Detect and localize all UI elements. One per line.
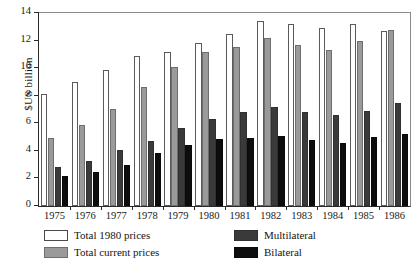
bar-group-1979 bbox=[164, 13, 191, 206]
bar-1985-multi bbox=[364, 111, 370, 206]
legend-item-totalcur: Total current prices bbox=[44, 246, 159, 258]
bar-group-1982 bbox=[257, 13, 284, 206]
bar-group-1977 bbox=[103, 13, 130, 206]
bar-1986-bilat bbox=[402, 134, 408, 206]
bar-1979-bilat bbox=[185, 145, 191, 206]
x-axis-tick-label-1975: 1975 bbox=[39, 210, 70, 221]
x-axis-tick-label-1982: 1982 bbox=[255, 210, 286, 221]
bar-group-1978 bbox=[134, 13, 161, 206]
bar-1981-totalcur bbox=[233, 47, 239, 206]
bar-1979-totalcur bbox=[171, 67, 177, 206]
bar-1982-bilat bbox=[278, 136, 284, 206]
bar-1981-bilat bbox=[247, 138, 253, 206]
bar-1986-total1980 bbox=[381, 31, 387, 206]
y-axis-tick-label: 8 bbox=[26, 88, 31, 99]
bar-1984-multi bbox=[333, 115, 339, 206]
bar-1980-bilat bbox=[216, 139, 222, 206]
bar-1985-bilat bbox=[371, 137, 377, 206]
plot-area: 02468101214 bbox=[38, 12, 411, 207]
legend-label-multi: Multilateral bbox=[264, 229, 316, 241]
bar-1977-totalcur bbox=[110, 109, 116, 206]
bar-1979-multi bbox=[178, 128, 184, 206]
legend-swatch-totalcur bbox=[44, 247, 68, 258]
bar-1980-multi bbox=[209, 119, 215, 206]
x-axis-tick-label-1979: 1979 bbox=[163, 210, 194, 221]
bar-1981-multi bbox=[240, 112, 246, 206]
y-axis-tick-label: 4 bbox=[26, 143, 31, 154]
x-axis-tick-label-1983: 1983 bbox=[286, 210, 317, 221]
bar-1983-multi bbox=[302, 112, 308, 206]
bar-1986-multi bbox=[395, 103, 401, 206]
bar-1976-bilat bbox=[93, 172, 99, 206]
bars-layer bbox=[39, 13, 410, 206]
legend-label-bilat: Bilateral bbox=[264, 246, 302, 258]
bar-1984-bilat bbox=[340, 143, 346, 206]
bar-1982-totalcur bbox=[264, 38, 270, 206]
legend-swatch-bilat bbox=[234, 247, 258, 258]
bar-1978-totalcur bbox=[141, 87, 147, 206]
legend-item-multi: Multilateral bbox=[234, 229, 316, 241]
bar-chart-figure: $US billion 02468101214 1975197619771978… bbox=[0, 0, 419, 269]
bar-1975-total1980 bbox=[41, 94, 47, 206]
bar-1985-total1980 bbox=[350, 24, 356, 206]
bar-1978-bilat bbox=[155, 153, 161, 206]
bar-1980-total1980 bbox=[195, 43, 201, 206]
bar-1977-bilat bbox=[124, 165, 130, 206]
bar-group-1980 bbox=[195, 13, 222, 206]
bar-1976-multi bbox=[86, 161, 92, 206]
legend-swatch-multi bbox=[234, 230, 258, 241]
x-axis-tick-label-1985: 1985 bbox=[348, 210, 379, 221]
bar-1984-total1980 bbox=[319, 28, 325, 206]
bar-1978-multi bbox=[148, 141, 154, 206]
chart-legend: Total 1980 pricesTotal current pricesMul… bbox=[44, 229, 384, 263]
bar-group-1983 bbox=[288, 13, 315, 206]
x-axis-tick-label-1976: 1976 bbox=[70, 210, 101, 221]
y-axis-tick-label: 2 bbox=[26, 170, 31, 181]
legend-label-totalcur: Total current prices bbox=[74, 246, 159, 258]
y-axis-tick-label: 6 bbox=[26, 115, 31, 126]
x-axis-tick-label-1984: 1984 bbox=[317, 210, 348, 221]
bar-group-1986 bbox=[381, 13, 408, 206]
bar-1981-total1980 bbox=[226, 34, 232, 206]
bar-1980-totalcur bbox=[202, 52, 208, 206]
x-axis-tick-label-1986: 1986 bbox=[379, 210, 410, 221]
bar-1984-totalcur bbox=[326, 50, 332, 206]
legend-swatch-total1980 bbox=[44, 230, 68, 241]
bar-1986-totalcur bbox=[388, 30, 394, 206]
legend-item-bilat: Bilateral bbox=[234, 246, 302, 258]
legend-item-total1980: Total 1980 prices bbox=[44, 229, 150, 241]
x-axis-tick-label-1977: 1977 bbox=[101, 210, 132, 221]
bar-1983-bilat bbox=[309, 140, 315, 206]
bar-group-1984 bbox=[319, 13, 346, 206]
bar-group-1981 bbox=[226, 13, 253, 206]
bar-1979-total1980 bbox=[164, 52, 170, 206]
bar-group-1975 bbox=[41, 13, 68, 206]
bar-1977-total1980 bbox=[103, 70, 109, 206]
y-axis-tick-label: 0 bbox=[26, 198, 31, 209]
y-axis-tick-label: 10 bbox=[21, 60, 32, 71]
bar-1978-total1980 bbox=[134, 56, 140, 206]
bar-1977-multi bbox=[117, 150, 123, 206]
x-axis-tick-label-1981: 1981 bbox=[225, 210, 256, 221]
bar-1982-total1980 bbox=[257, 21, 263, 206]
bar-1975-totalcur bbox=[48, 138, 54, 206]
bar-1985-totalcur bbox=[357, 41, 363, 206]
legend-label-total1980: Total 1980 prices bbox=[74, 229, 150, 241]
bar-1976-total1980 bbox=[72, 82, 78, 206]
bar-1975-bilat bbox=[62, 176, 68, 206]
bar-1983-totalcur bbox=[295, 45, 301, 206]
bar-1975-multi bbox=[55, 167, 61, 206]
y-axis-tick-label: 14 bbox=[21, 5, 32, 16]
bar-1983-total1980 bbox=[288, 24, 294, 206]
x-axis-tick-label-1980: 1980 bbox=[194, 210, 225, 221]
x-axis-tick-label-1978: 1978 bbox=[132, 210, 163, 221]
y-axis-tick-label: 12 bbox=[21, 33, 32, 44]
bar-group-1985 bbox=[350, 13, 377, 206]
bar-1982-multi bbox=[271, 107, 277, 206]
bar-group-1976 bbox=[72, 13, 99, 206]
bar-1976-totalcur bbox=[79, 125, 85, 206]
